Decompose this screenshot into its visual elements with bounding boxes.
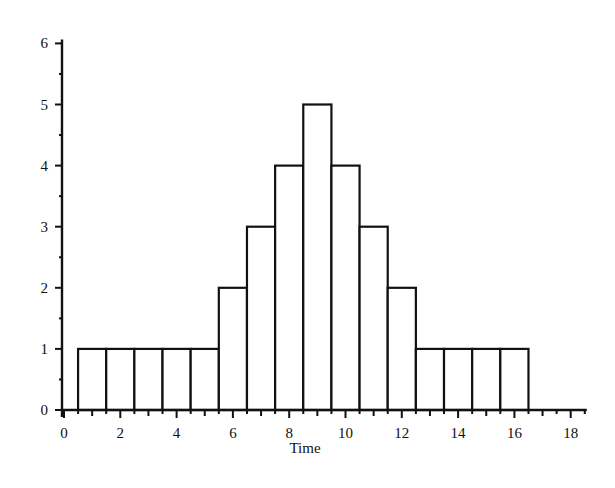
x-tick-label: 6	[229, 425, 237, 441]
histogram-bar	[416, 349, 444, 410]
x-tick-label: 12	[394, 425, 409, 441]
histogram-bar	[275, 166, 303, 410]
histogram-bar	[500, 349, 528, 410]
histogram-bar	[134, 349, 162, 410]
x-tick-label: 14	[451, 425, 467, 441]
x-tick-label: 16	[507, 425, 523, 441]
bars-group	[78, 105, 528, 411]
x-tick-label: 0	[60, 425, 68, 441]
x-axis-label: Time	[289, 440, 320, 456]
y-tick-label: 5	[41, 97, 49, 113]
histogram-bar	[78, 349, 106, 410]
y-tick-label: 1	[41, 341, 49, 357]
chart-canvas: 0123456024681012141618 Time	[0, 0, 615, 488]
y-tick-label: 2	[41, 280, 49, 296]
histogram-bar	[163, 349, 191, 410]
histogram-bar	[219, 288, 247, 410]
histogram-chart: 0123456024681012141618 Time	[0, 0, 615, 488]
histogram-bar	[191, 349, 219, 410]
histogram-bar	[444, 349, 472, 410]
y-tick-label: 0	[41, 402, 49, 418]
x-tick-label: 2	[117, 425, 125, 441]
histogram-bar	[472, 349, 500, 410]
y-tick-label: 3	[41, 219, 49, 235]
x-tick-label: 10	[338, 425, 353, 441]
histogram-bar	[303, 105, 331, 411]
y-tick-label: 4	[41, 158, 49, 174]
histogram-bar	[360, 227, 388, 410]
y-tick-label: 6	[41, 35, 49, 51]
x-tick-label: 18	[563, 425, 578, 441]
x-tick-label: 4	[173, 425, 181, 441]
x-tick-label: 8	[285, 425, 293, 441]
histogram-bar	[331, 166, 359, 410]
histogram-bar	[247, 227, 275, 410]
histogram-bar	[388, 288, 416, 410]
histogram-bar	[106, 349, 134, 410]
